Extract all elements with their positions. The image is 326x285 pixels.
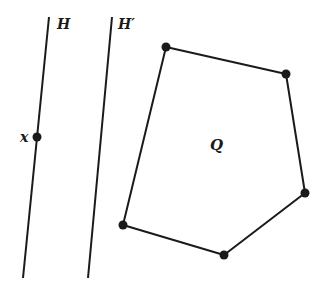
diagram-canvas: HH′ Q x bbox=[0, 0, 326, 285]
line-H-label: H bbox=[56, 16, 71, 32]
line-H_prime bbox=[88, 17, 112, 278]
polygon-vertex-3 bbox=[301, 189, 310, 198]
point-x-dot bbox=[33, 133, 42, 142]
polygon-vertex-4 bbox=[220, 251, 229, 260]
point-x-label: x bbox=[19, 129, 29, 145]
polygon-Q-label: Q bbox=[210, 136, 223, 154]
polygon-vertex-2 bbox=[282, 70, 291, 79]
line-H_prime-label: H′ bbox=[117, 16, 135, 32]
polygon-vertex-5 bbox=[119, 221, 128, 230]
hyperplanes: HH′ bbox=[23, 16, 135, 278]
line-H bbox=[23, 17, 49, 278]
polygon-Q: Q bbox=[119, 43, 310, 260]
polygon-vertex-1 bbox=[162, 43, 171, 52]
